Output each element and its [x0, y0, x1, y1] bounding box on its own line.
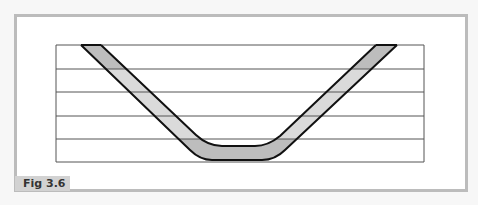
figure-label: Fig 3.6 — [15, 176, 70, 191]
band-fill — [56, 45, 424, 160]
channel-outer-edge — [81, 45, 397, 160]
cross-section-diagram — [0, 0, 478, 205]
channel-outline — [81, 45, 397, 160]
